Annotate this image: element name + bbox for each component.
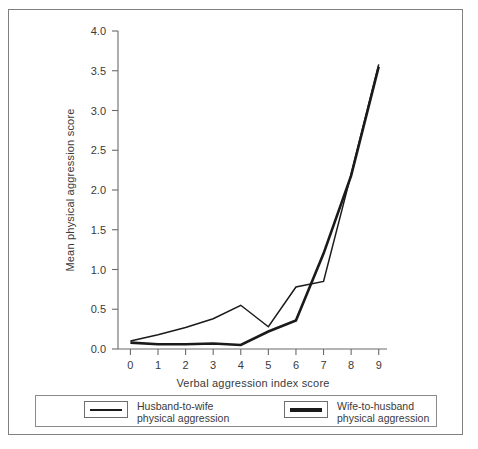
- figure-frame: 0.00.51.01.52.02.53.03.54.0 0123456789 M…: [8, 9, 463, 435]
- legend-item-wife-to-husband: Wife-to-husband physical aggression: [284, 400, 429, 424]
- legend-item-husband-to-wife: Husband-to-wife physical aggression: [84, 400, 229, 424]
- x-tick-label: 7: [320, 359, 326, 371]
- legend: Husband-to-wife physical aggression Wife…: [35, 395, 437, 427]
- x-tick-label: 0: [127, 359, 133, 371]
- y-tick-label: 1.5: [91, 224, 106, 236]
- x-axis-tick-labels: 0123456789: [127, 359, 381, 371]
- legend-label-line-2: physical aggression: [137, 412, 229, 424]
- y-tick-label: 0.0: [91, 343, 106, 355]
- x-tick-label: 2: [183, 359, 189, 371]
- legend-label-wife-to-husband: Wife-to-husband physical aggression: [337, 400, 429, 424]
- x-tick-label: 6: [293, 359, 299, 371]
- y-tick-label: 2.5: [91, 144, 106, 156]
- series-line-wife-to-husband: [130, 67, 378, 345]
- legend-label-line-2: physical aggression: [337, 412, 429, 424]
- y-tick-label: 1.0: [91, 264, 106, 276]
- thick-line-swatch-icon: [284, 401, 328, 418]
- y-axis-tick-labels: 0.00.51.01.52.02.53.03.54.0: [91, 25, 106, 355]
- x-tick-label: 3: [210, 359, 216, 371]
- x-tick-label: 9: [376, 359, 382, 371]
- x-tick-label: 4: [238, 359, 244, 371]
- swatch-line: [290, 408, 322, 412]
- x-tick-label: 5: [265, 359, 271, 371]
- y-axis-title: Mean physical aggression score: [64, 108, 76, 271]
- x-tick-label: 1: [155, 359, 161, 371]
- swatch-line: [90, 409, 122, 411]
- line-chart: 0.00.51.01.52.02.53.03.54.0 0123456789 M…: [9, 10, 464, 436]
- thin-line-swatch-icon: [84, 401, 128, 418]
- plot-region: 0.00.51.01.52.02.53.03.54.0 0123456789 M…: [9, 10, 464, 436]
- y-tick-label: 3.0: [91, 105, 106, 117]
- x-axis-ticks: [130, 349, 378, 355]
- x-axis-title: Verbal aggression index score: [176, 377, 329, 389]
- y-tick-label: 3.5: [91, 65, 106, 77]
- legend-label-line-1: Husband-to-wife: [137, 400, 213, 412]
- legend-label-husband-to-wife: Husband-to-wife physical aggression: [137, 400, 229, 424]
- y-axis-ticks: [112, 31, 118, 349]
- y-tick-label: 4.0: [91, 25, 106, 37]
- y-tick-label: 0.5: [91, 303, 106, 315]
- legend-label-line-1: Wife-to-husband: [337, 400, 414, 412]
- y-tick-label: 2.0: [91, 184, 106, 196]
- x-tick-label: 8: [348, 359, 354, 371]
